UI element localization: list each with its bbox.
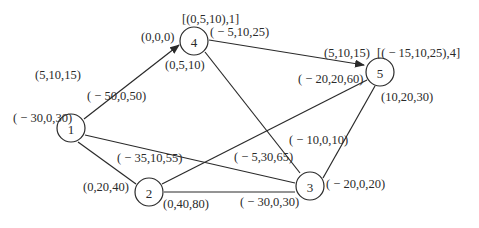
node-1-below-label: ( − 30,0,30) xyxy=(13,112,72,125)
edge-5-3 xyxy=(323,86,375,178)
node-3-right-label: ( − 20,0,20) xyxy=(326,178,385,191)
node-4-below-label: (0,5,10) xyxy=(165,59,205,72)
edge-2-5 xyxy=(162,80,367,184)
node-2-above-label: ( − 35,10,55) xyxy=(117,152,182,165)
node-1-top-label: (5,10,15) xyxy=(35,69,81,82)
node-4-top-label: [(0,5,10),1] xyxy=(182,13,239,26)
node-5-below-label: (10,20,30) xyxy=(381,91,433,104)
node-5-topleft-label: (5,10,15) xyxy=(324,47,370,60)
node-4-label: 4 xyxy=(191,35,198,50)
node-4-right-label: ( − 5,10,25) xyxy=(210,26,269,39)
node-5-topright-label: [( − 15,10,25),4] xyxy=(377,47,460,60)
node-3-upper-label: ( − 10,0,10) xyxy=(289,134,348,147)
node-5-label: 5 xyxy=(377,66,384,81)
node-3-below-label: ( − 30,0,30) xyxy=(240,196,299,209)
node-5-left-label: ( − 20,20,60) xyxy=(298,73,363,86)
node-2-label: 2 xyxy=(146,186,153,201)
node-3-left-label: ( − 5,30,65) xyxy=(234,151,293,164)
node-2-below-label: (0,40,80) xyxy=(163,198,209,211)
edge-1-4 xyxy=(84,45,179,119)
node-3-label: 3 xyxy=(307,180,314,195)
node-1-right-label: ( − 50,0,50) xyxy=(87,90,146,103)
node-4-left-label: (0,0,0) xyxy=(141,31,174,44)
node-2-left-label: (0,20,40) xyxy=(83,181,129,194)
